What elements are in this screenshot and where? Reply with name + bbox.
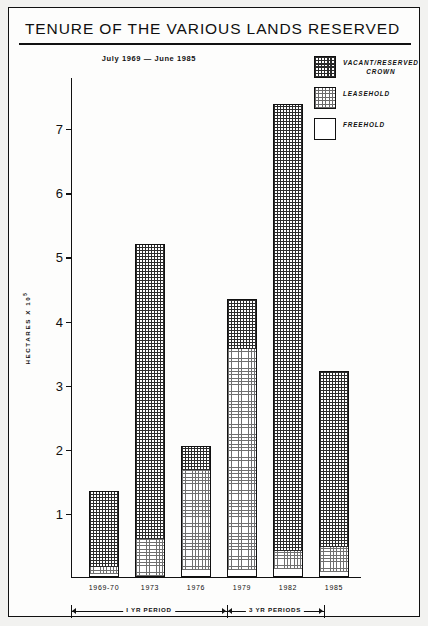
period-arrow-right-1yr (222, 608, 226, 614)
bar-segment-leasehold-1982 (273, 551, 303, 569)
bar-segment-freehold-1985 (319, 572, 349, 576)
chart-page: TENURE OF THE VARIOUS LANDS RESERVED Jul… (0, 0, 428, 626)
bar-1982[interactable] (273, 104, 303, 577)
y-tick-label-1: 1 (56, 506, 63, 521)
y-tick-label-5: 5 (56, 250, 63, 265)
bar-1979[interactable] (227, 299, 257, 577)
y-tick-6 (66, 193, 72, 194)
y-tick-7 (66, 129, 72, 130)
bar-segment-crown-1982 (273, 104, 303, 551)
x-tick-label-1985: 1985 (325, 584, 343, 591)
bar-1985[interactable] (319, 371, 349, 577)
bar-segment-leasehold-1985 (319, 547, 349, 573)
legend-item-vacant-reserved-crown: VACANT/RESERVED CROWN (314, 56, 424, 78)
bar-segment-crown-1976 (181, 446, 211, 470)
bar-segment-freehold-1976 (181, 570, 211, 576)
period-arrow-left-3yr (228, 608, 232, 614)
x-tick-label-1982: 1982 (279, 584, 297, 591)
period-arrow-left-1yr (72, 608, 76, 614)
bar-segment-crown-1979 (227, 299, 257, 348)
period-label-3yr: 3 YR PERIODS (246, 606, 304, 613)
legend-label-line1: VACANT/RESERVED (343, 59, 419, 66)
bar-segment-freehold-1979 (227, 570, 257, 576)
y-tick-label-4: 4 (56, 314, 63, 329)
y-axis-title-text: HECTARES X 10 (24, 296, 31, 365)
bar-segment-freehold-1982 (273, 569, 303, 577)
y-tick-label-6: 6 (56, 186, 63, 201)
period-tick-end (324, 605, 325, 618)
bar-segment-crown-1985 (319, 371, 349, 547)
title-divider (19, 43, 411, 45)
bar-segment-leasehold-1976 (181, 470, 211, 570)
y-tick-label-3: 3 (56, 378, 63, 393)
bar-segment-crown-1973 (135, 244, 165, 539)
bar-1973[interactable] (135, 244, 165, 577)
y-tick-3 (66, 386, 72, 387)
bar-segment-leasehold-1969-70 (89, 567, 119, 574)
bar-1969-70[interactable] (89, 491, 119, 576)
legend-label-vacant-reserved-crown: VACANT/RESERVED CROWN (343, 56, 419, 76)
plot-area: HECTARES X 105 7654321 1969-701973197619… (71, 78, 351, 578)
chart-frame: TENURE OF THE VARIOUS LANDS RESERVED Jul… (8, 7, 420, 617)
period-annotation: I YR PERIOD 3 YR PERIODS (71, 602, 361, 622)
x-axis-line (71, 577, 361, 578)
x-tick-label-1973: 1973 (141, 584, 159, 591)
period-label-1yr: I YR PERIOD (123, 606, 175, 613)
bar-segment-leasehold-1979 (227, 349, 257, 571)
y-tick-1 (66, 514, 72, 515)
swatch-vacant-reserved-crown-icon (314, 56, 336, 78)
y-axis-title: HECTARES X 105 (23, 292, 31, 365)
bar-segment-crown-1969-70 (89, 491, 119, 567)
y-tick-label-2: 2 (56, 442, 63, 457)
chart-subtitle: July 1969 — June 1985 (9, 54, 289, 63)
x-tick-label-1969-70: 1969-70 (89, 584, 120, 591)
x-tick-label-1979: 1979 (233, 584, 251, 591)
y-tick-4 (66, 322, 72, 323)
x-tick-label-1976: 1976 (187, 584, 205, 591)
legend-label-line2: CROWN (343, 68, 419, 77)
y-tick-label-7: 7 (56, 122, 63, 137)
y-axis-line (71, 78, 72, 578)
y-tick-5 (66, 257, 72, 258)
y-tick-2 (66, 450, 72, 451)
bar-segment-freehold-1969-70 (89, 574, 119, 577)
bar-segment-leasehold-1973 (135, 539, 165, 577)
y-axis-title-exponent: 5 (23, 292, 28, 296)
bar-1976[interactable] (181, 446, 211, 577)
page-title: TENURE OF THE VARIOUS LANDS RESERVED (25, 20, 400, 38)
period-arrow-right-3yr (319, 608, 323, 614)
